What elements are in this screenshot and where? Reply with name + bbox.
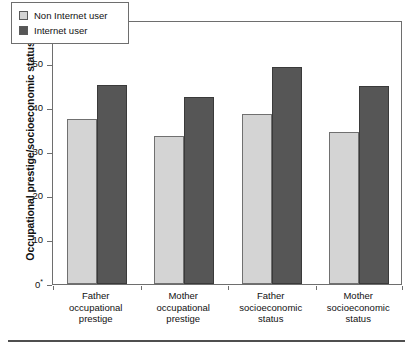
category-label-line: socioeconomic (315, 302, 403, 314)
bar-internet-user-1 (97, 85, 127, 284)
legend-swatch-icon-internet-user (19, 26, 28, 35)
category-label-line: Father (52, 290, 140, 302)
legend-swatch-icon-non-internet-user (19, 11, 28, 20)
category-label-line: occupational (52, 302, 140, 314)
y-axis-tick-label-20: 20 (32, 190, 43, 201)
bar-internet-user-2 (184, 97, 214, 284)
legend-item-internet-user: Internet user (19, 23, 122, 38)
y-axis-tick-mark-0 (47, 285, 52, 286)
bar-non-internet-user-3 (242, 114, 272, 284)
bar-internet-user-3 (272, 67, 302, 284)
category-label-line: status (315, 313, 403, 325)
y-axis-tick-label-0: 0* (35, 278, 43, 290)
footer-rule (8, 340, 405, 342)
legend-label-non-internet-user: Non Internet user (34, 10, 107, 21)
x-axis-category-label-4: Mothersocioeconomicstatus (315, 290, 403, 325)
plot-area (52, 21, 402, 285)
category-label-line: prestige (52, 313, 140, 325)
x-axis-category-label-2: Motheroccupationalprestige (140, 290, 228, 325)
bar-internet-user-4 (359, 86, 389, 284)
category-label-line: occupational (140, 302, 228, 314)
x-axis-category-label-3: Fathersocioeconomicstatus (227, 290, 315, 325)
category-label-line: socioeconomic (227, 302, 315, 314)
y-axis-tick-label-50: 50 (32, 58, 43, 69)
legend-label-internet-user: Internet user (34, 25, 87, 36)
category-label-line: status (227, 313, 315, 325)
bar-non-internet-user-2 (154, 136, 184, 284)
bar-non-internet-user-4 (329, 132, 359, 284)
x-axis-category-label-1: Fatheroccupationalprestige (52, 290, 140, 325)
category-label-line: Father (227, 290, 315, 302)
x-axis-tickmark-end (402, 286, 403, 290)
bar-chart-figure: Occupational prestige/socioeconomic stat… (0, 0, 413, 351)
legend-item-non-internet-user: Non Internet user (19, 8, 122, 23)
category-label-line: prestige (140, 313, 228, 325)
y-axis-tick-label-30: 30 (32, 146, 43, 157)
category-label-line: Mother (315, 290, 403, 302)
y-axis-tick-label-40: 40 (32, 102, 43, 113)
y-axis-tick-label-10: 10 (32, 234, 43, 245)
chart-legend: Non Internet user Internet user (11, 2, 129, 44)
category-label-line: Mother (140, 290, 228, 302)
bar-non-internet-user-1 (67, 119, 97, 284)
